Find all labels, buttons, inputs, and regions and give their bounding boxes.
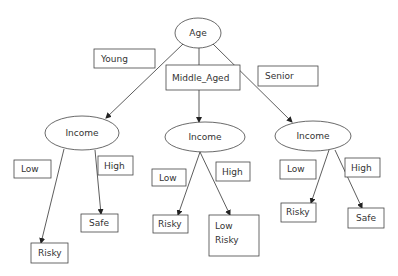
branch-label-young-high-text: High xyxy=(104,161,125,171)
node-income-young: Income xyxy=(45,116,119,150)
leaf-middle-low-risky: Risky xyxy=(153,215,188,233)
branch-label-middle-high: High xyxy=(216,162,250,181)
node-income-middle: Income xyxy=(165,122,245,152)
branch-label-senior-low: Low xyxy=(280,160,316,179)
node-age: Age xyxy=(175,18,221,48)
branch-label-senior-high: High xyxy=(345,158,380,177)
leaf-senior-high-safe-text: Safe xyxy=(356,213,376,223)
node-income-young-label: Income xyxy=(65,128,99,138)
edge-income-middle-to-low-risky xyxy=(200,152,230,215)
leaf-young-low-risky: Risky xyxy=(31,243,68,263)
node-income-senior-label: Income xyxy=(296,131,330,141)
leaf-young-low-risky-text: Risky xyxy=(38,248,62,258)
branch-label-middle-high-text: High xyxy=(222,167,243,177)
decision-tree-diagram: Age Young Middle_Aged Senior Income Low … xyxy=(0,0,398,276)
leaf-middle-low-risky-text: Risky xyxy=(158,219,182,229)
leaf-middle-high-low-risky: Low Risky xyxy=(209,215,259,256)
branch-label-senior-text: Senior xyxy=(265,71,294,81)
branch-label-middle-aged: Middle_Aged xyxy=(166,65,240,90)
leaf-senior-low-risky-text: Risky xyxy=(286,207,310,217)
node-income-senior: Income xyxy=(275,121,351,151)
node-income-middle-label: Income xyxy=(188,132,222,142)
branch-label-young-text: Young xyxy=(100,54,128,64)
branch-label-young-low: Low xyxy=(14,160,51,178)
branch-label-middle-aged-text: Middle_Aged xyxy=(172,73,229,83)
branch-label-middle-low-text: Low xyxy=(159,173,177,183)
branch-label-middle-low: Low xyxy=(152,169,186,186)
branch-label-senior: Senior xyxy=(258,66,318,86)
branch-label-young: Young xyxy=(94,49,155,68)
branch-label-young-low-text: Low xyxy=(21,164,39,174)
leaf-middle-high-low-risky-line2: Risky xyxy=(215,235,239,245)
leaf-senior-low-risky: Risky xyxy=(281,203,316,222)
leaf-middle-high-low-risky-line1: Low xyxy=(215,221,233,231)
branch-label-senior-low-text: Low xyxy=(287,164,305,174)
leaf-senior-high-safe: Safe xyxy=(348,208,384,228)
leaf-young-high-safe-text: Safe xyxy=(89,218,109,228)
node-age-label: Age xyxy=(189,28,207,38)
branch-label-senior-high-text: High xyxy=(351,163,372,173)
branch-label-young-high: High xyxy=(98,156,133,175)
leaf-young-high-safe: Safe xyxy=(81,214,118,232)
